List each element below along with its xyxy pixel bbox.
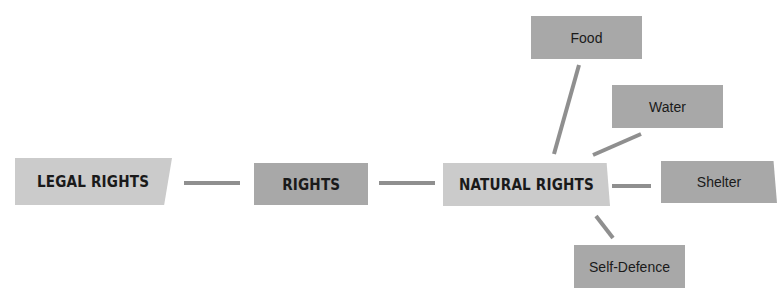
node-label: RIGHTS [282, 175, 340, 194]
node-label: Food [571, 30, 603, 46]
node-rights: RIGHTS [254, 163, 368, 205]
node-natural-rights: NATURAL RIGHTS [443, 163, 610, 206]
node-label: Water [649, 99, 686, 115]
node-label: LEGAL RIGHTS [37, 172, 149, 191]
node-food: Food [531, 16, 642, 59]
edge-natural-food [554, 65, 579, 154]
edge-natural-selfdefence [596, 216, 613, 238]
node-self-defence: Self-Defence [574, 245, 685, 288]
node-water: Water [612, 85, 723, 128]
node-label: Shelter [697, 174, 741, 190]
edge-natural-water [593, 134, 641, 155]
node-legal-rights: LEGAL RIGHTS [15, 158, 172, 205]
node-shelter: Shelter [661, 161, 777, 203]
node-label: NATURAL RIGHTS [459, 175, 594, 194]
node-label: Self-Defence [589, 259, 670, 275]
